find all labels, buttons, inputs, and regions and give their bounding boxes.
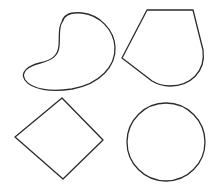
- pentagon-shape: [122, 10, 203, 86]
- shapes-canvas: [0, 0, 215, 191]
- circle-shape: [127, 103, 205, 181]
- blob-shape: [23, 13, 115, 91]
- diamond-shape: [15, 98, 103, 179]
